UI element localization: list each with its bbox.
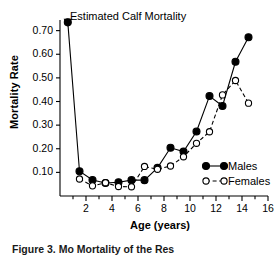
data-point-males — [141, 177, 148, 184]
data-point-females — [193, 140, 199, 146]
x-tick-label: 14 — [233, 202, 251, 214]
x-tick-label: 2 — [77, 202, 95, 214]
y-tick-label: 0.70 — [19, 24, 53, 36]
data-point-females — [76, 176, 82, 182]
data-point-females — [167, 163, 173, 169]
x-tick-label: 8 — [155, 202, 173, 214]
y-tick-label: 0.20 — [19, 142, 53, 154]
legend-marker-females-left — [203, 178, 209, 184]
legend-label-females: Females — [228, 175, 270, 187]
x-axis-label: Age (years) — [60, 219, 260, 231]
legend-label-males: Males — [228, 160, 257, 172]
x-tick-label: 6 — [129, 202, 147, 214]
data-point-females — [115, 183, 121, 189]
data-point-females — [219, 92, 225, 98]
figure-caption: Figure 3. Mo Mortality of the Res — [12, 243, 277, 255]
y-tick-label: 0.30 — [19, 118, 53, 130]
y-tick-label: 0.50 — [19, 71, 53, 83]
x-tick-label: 16 — [259, 202, 277, 214]
data-point-males — [206, 93, 213, 100]
data-point-females — [180, 154, 186, 160]
data-point-females — [102, 180, 108, 186]
calf-mortality-annotation: Estimated Calf Mortality — [70, 10, 186, 22]
y-tick-label: 0.60 — [19, 47, 53, 59]
data-point-females — [232, 77, 238, 83]
data-point-males — [128, 177, 135, 184]
data-point-males — [245, 34, 252, 41]
x-tick-label: 10 — [181, 202, 199, 214]
y-tick-label: 0.10 — [19, 165, 53, 177]
y-tick-label: 0.40 — [19, 95, 53, 107]
data-point-males — [167, 144, 174, 151]
data-point-females — [141, 163, 147, 169]
x-tick-label: 12 — [207, 202, 225, 214]
data-point-females — [128, 184, 134, 190]
legend-marker-females-right — [221, 178, 227, 184]
data-point-males — [219, 102, 226, 109]
data-point-males — [232, 58, 239, 65]
data-point-males — [76, 168, 83, 175]
data-point-females — [154, 166, 160, 172]
data-point-females — [89, 183, 95, 189]
data-point-females — [206, 129, 212, 135]
legend-marker-males-right — [221, 163, 228, 170]
data-point-females — [245, 100, 251, 106]
data-point-males — [193, 128, 200, 135]
legend-marker-males-left — [203, 163, 210, 170]
x-tick-label: 4 — [103, 202, 121, 214]
